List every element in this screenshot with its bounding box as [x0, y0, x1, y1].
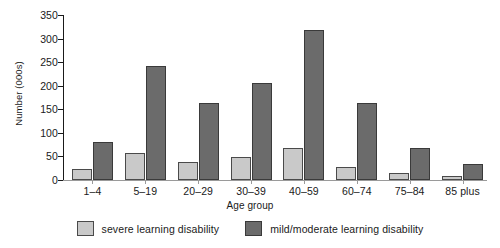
- bar-group: [178, 15, 219, 180]
- plot-area: [64, 15, 487, 180]
- bar-severe: [125, 153, 145, 180]
- bar-severe: [283, 148, 303, 180]
- legend-item[interactable]: mild/moderate learning disability: [245, 221, 423, 236]
- legend-item[interactable]: severe learning disability: [77, 221, 220, 236]
- bar-chart: Number (000s) 050100150200250300350 1–45…: [0, 0, 500, 248]
- x-tick-label: 75–84: [380, 185, 440, 197]
- x-tick-label: 5–19: [115, 185, 175, 197]
- bar-mild: [146, 66, 166, 180]
- y-tick-label: 0: [30, 175, 58, 185]
- bar-severe: [442, 176, 462, 180]
- bar-severe: [389, 173, 409, 180]
- x-axis-title: Age group: [0, 200, 500, 211]
- y-tick-label: 350: [30, 10, 58, 20]
- x-tick-label: 1–4: [62, 185, 122, 197]
- bar-mild: [463, 164, 483, 181]
- bar-group: [442, 15, 483, 180]
- y-tick-label: 250: [30, 57, 58, 67]
- x-tick-mark: [145, 180, 146, 184]
- x-tick-mark: [92, 180, 93, 184]
- y-tick-label: 150: [30, 104, 58, 114]
- bar-mild: [304, 30, 324, 180]
- x-tick-label: 85 plus: [433, 185, 493, 197]
- bar-severe: [178, 162, 198, 180]
- x-tick-label: 20–29: [168, 185, 228, 197]
- bar-mild: [410, 148, 430, 180]
- legend-swatch-mild: [245, 221, 262, 236]
- x-tick-mark: [463, 180, 464, 184]
- bar-group: [231, 15, 272, 180]
- bar-mild: [93, 142, 113, 180]
- y-tick-label: 300: [30, 34, 58, 44]
- bar-mild: [357, 103, 377, 180]
- legend-label: mild/moderate learning disability: [270, 223, 423, 235]
- bar-mild: [252, 83, 272, 180]
- x-tick-label: 60–74: [327, 185, 387, 197]
- x-axis-line: [63, 180, 487, 181]
- y-axis-title: Number (000s): [13, 24, 24, 164]
- legend-swatch-severe: [77, 221, 94, 236]
- x-tick-mark: [357, 180, 358, 184]
- bar-severe: [231, 157, 251, 180]
- bar-group: [283, 15, 324, 180]
- bar-mild: [199, 103, 219, 180]
- x-tick-label: 30–39: [221, 185, 281, 197]
- chart-legend: severe learning disabilitymild/moderate …: [0, 221, 500, 236]
- bar-group: [336, 15, 377, 180]
- y-tick-label: 200: [30, 81, 58, 91]
- bar-group: [125, 15, 166, 180]
- y-tick-label: 100: [30, 128, 58, 138]
- legend-label: severe learning disability: [102, 223, 220, 235]
- bar-severe: [72, 169, 92, 180]
- y-tick-label: 50: [30, 151, 58, 161]
- x-tick-mark: [410, 180, 411, 184]
- x-tick-mark: [198, 180, 199, 184]
- bar-severe: [336, 167, 356, 180]
- x-tick-label: 40–59: [274, 185, 334, 197]
- bar-group: [72, 15, 113, 180]
- x-tick-mark: [251, 180, 252, 184]
- bar-group: [389, 15, 430, 180]
- x-tick-mark: [304, 180, 305, 184]
